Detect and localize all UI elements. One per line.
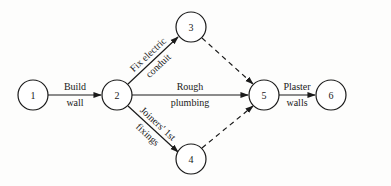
diagram-svg: Build wall Fix electric conduit Rough pl… [0, 0, 391, 186]
edge-fix-electric-conduit: Fix electric conduit [128, 35, 179, 85]
edge-label-bottom: wall [66, 97, 83, 108]
node-label: 2 [115, 90, 120, 101]
node-4: 4 [176, 144, 206, 174]
edge-joiners-1st-fixings: Joiners' 1st fixings [128, 104, 178, 153]
edge-label-top: Rough [177, 81, 204, 92]
edge-dummy-3-5 [202, 38, 253, 84]
network-diagram: Build wall Fix electric conduit Rough pl… [0, 0, 391, 186]
edge-label-top: Build [64, 81, 86, 92]
node-2: 2 [102, 80, 132, 110]
edge-label-top: Plaster [283, 81, 311, 92]
node-label: 5 [262, 90, 267, 101]
node-6: 6 [316, 80, 346, 110]
dashed-arrow-line [202, 106, 253, 148]
edge-label-bottom: walls [286, 97, 307, 108]
node-label: 6 [329, 90, 334, 101]
node-label: 4 [189, 154, 194, 165]
edge-plaster-walls: Plaster walls [279, 81, 315, 108]
dashed-arrow-line [202, 38, 253, 84]
edge-dummy-4-5 [202, 106, 253, 148]
node-5: 5 [249, 80, 279, 110]
node-3: 3 [176, 12, 206, 42]
edge-label-bottom: plumbing [171, 97, 209, 108]
edge-rough-plumbing: Rough plumbing [132, 81, 248, 108]
edge-build-wall: Build wall [48, 81, 101, 108]
node-label: 1 [31, 90, 36, 101]
node-1: 1 [18, 80, 48, 110]
node-label: 3 [189, 22, 194, 33]
